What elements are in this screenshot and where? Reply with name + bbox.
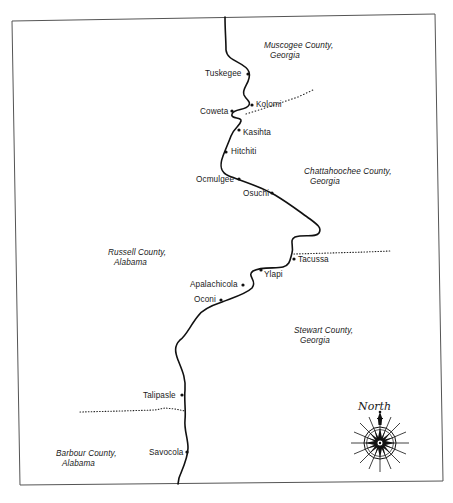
town-dot-osuchi [270,191,273,194]
compass-north-label: North [358,400,391,413]
town-dot-oconi [219,298,222,301]
county-label-russell: Russell County, Alabama [108,248,166,268]
town-label-kasihta: Kasihta [243,128,271,138]
county-name: Russell County, [108,248,166,257]
town-dot-coweta [230,109,233,112]
county-boundary-russell-barbour [80,408,185,412]
town-dot-kolomi [250,103,253,106]
county-state: Alabama [56,459,117,469]
map-canvas: Muscogee County, Georgia Chattahoochee C… [0,0,453,503]
town-label-apalachicola: Apalachicola [190,280,238,290]
town-dot-ocmulgee [237,177,240,180]
county-name: Muscogee County, [264,41,333,50]
town-label-tuskegee: Tuskegee [205,69,241,79]
town-label-ocmulgee: Ocmulgee [196,175,234,185]
county-name: Stewart County, [294,326,353,335]
town-dot-ylapi [259,268,262,271]
county-label-stewart: Stewart County, Georgia [294,326,353,346]
town-label-tacussa: Tacussa [298,255,329,265]
county-state: Georgia [264,51,333,61]
county-label-barbour: Barbour County, Alabama [56,449,117,469]
town-label-osuchi: Osuchi [243,189,269,199]
town-label-hitchiti: Hitchiti [231,147,256,157]
county-label-muscogee: Muscogee County, Georgia [264,41,333,61]
county-state: Georgia [304,177,392,187]
county-label-chattahoochee: Chattahoochee County, Georgia [304,167,392,187]
town-dot-kasihta [237,128,240,131]
county-boundary-chattahoochee-stewart [294,251,390,254]
town-dot-savocola [185,450,188,453]
town-label-oconi: Oconi [194,295,216,305]
town-dot-hitchiti [224,150,227,153]
county-state: Georgia [294,336,353,346]
town-dot-talipasle [180,393,183,396]
town-label-savocola: Savocola [149,448,183,458]
county-state: Alabama [108,258,166,268]
compass-rose-icon [351,411,409,472]
town-label-coweta: Coweta [200,107,228,117]
town-dot-tuskegee [246,72,249,75]
river [176,17,320,484]
town-label-ylapi: Ylapi [264,270,283,280]
county-name: Barbour County, [56,449,117,458]
town-dots [180,72,295,453]
town-dot-apalachicola [241,283,244,286]
town-dot-tacussa [292,257,295,260]
county-name: Chattahoochee County, [304,167,392,176]
town-label-talipasle: Talipasle [143,391,176,401]
map-frame [12,14,443,485]
town-label-kolomi: Kolomi [256,100,282,110]
